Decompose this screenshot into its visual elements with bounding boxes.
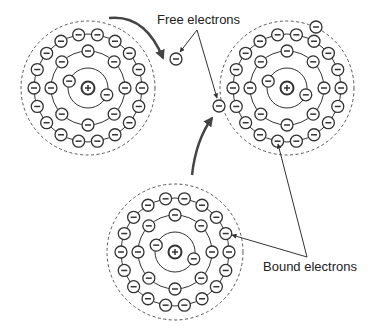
bound-electron (335, 82, 347, 94)
bound-electron (142, 199, 154, 211)
bound-electron (290, 135, 302, 147)
atom-top-right (220, 21, 354, 155)
bound-electron (118, 228, 130, 240)
bound-electron (254, 35, 266, 47)
bound-electron (196, 293, 208, 305)
bound-electron (133, 100, 145, 112)
bound-electron (143, 220, 155, 232)
bound-electron (160, 193, 172, 205)
bound-electron (91, 29, 103, 41)
bound-electron (28, 82, 40, 94)
bound-electron (132, 246, 144, 258)
atoms (21, 21, 354, 320)
bound-electron (290, 29, 302, 41)
bound-electron (196, 199, 208, 211)
bound-electron (41, 117, 53, 129)
bound-electron (41, 47, 53, 59)
free-electron (213, 100, 225, 112)
bound-electron (240, 47, 252, 59)
bound-electron (82, 119, 94, 131)
atom-diagram (0, 0, 375, 335)
pointer-arrow (197, 30, 217, 98)
bound-electron (55, 129, 67, 141)
bound-electron (272, 29, 284, 41)
bound-electron (136, 82, 148, 94)
bound-electron (123, 47, 135, 59)
bound-electron (210, 281, 222, 293)
bound-electron (244, 82, 256, 94)
atom-top-left (21, 21, 155, 155)
bound-electron (108, 108, 120, 120)
bound-electron (272, 135, 284, 147)
free-electron (170, 53, 182, 65)
bound-electron (73, 135, 85, 147)
bound-electron (128, 281, 140, 293)
bound-electron (55, 35, 67, 47)
bound-electron (178, 299, 190, 311)
bound-electron (240, 117, 252, 129)
nucleus (82, 82, 95, 95)
free-electrons-label: Free electrons (157, 12, 240, 27)
bound-electron (73, 29, 85, 41)
bound-electron (195, 272, 207, 284)
bound-electron (308, 129, 320, 141)
bound-electron (307, 108, 319, 120)
bound-electron (254, 129, 266, 141)
bound-electron (56, 108, 68, 120)
bound-electron (206, 246, 218, 258)
bound-electron (230, 64, 242, 76)
bound-electron (322, 47, 334, 59)
bound-electron (307, 56, 319, 68)
bound-electron (220, 264, 232, 276)
atom-bottom (107, 184, 243, 320)
pointer-arrow (278, 144, 307, 257)
bound-electron (300, 89, 312, 101)
bound-electron (45, 82, 57, 94)
bound-electron (63, 75, 75, 87)
bound-electron (255, 56, 267, 68)
bound-electron (281, 45, 293, 57)
bound-electron (281, 119, 293, 131)
bound-electron (195, 220, 207, 232)
bound-electron (115, 246, 127, 258)
bound-electron (56, 56, 68, 68)
bound-electron (230, 100, 242, 112)
pointer-arrow (180, 30, 197, 52)
bound-electron (119, 82, 131, 94)
bound-electron (133, 64, 145, 76)
bound-electron (91, 135, 103, 147)
bound-electron (118, 264, 130, 276)
bound-electron (128, 211, 140, 223)
bound-electron (108, 56, 120, 68)
bound-electron (143, 272, 155, 284)
bound-electron (31, 64, 43, 76)
bound-electron (220, 228, 232, 240)
bound-electron (169, 209, 181, 221)
bound-electron (318, 82, 330, 94)
bound-electron (31, 100, 43, 112)
bound-electron (262, 75, 274, 87)
bound-electron (150, 239, 162, 251)
bound-electron (101, 89, 113, 101)
bound-electron (332, 100, 344, 112)
bound-electrons-label: Bound electrons (263, 259, 357, 274)
bound-electron (160, 299, 172, 311)
bound-electron (123, 117, 135, 129)
bound-electron (223, 246, 235, 258)
bound-electron (178, 193, 190, 205)
free-electron (310, 21, 322, 33)
bound-electron (332, 64, 344, 76)
bound-electron (142, 293, 154, 305)
bound-electron (308, 35, 320, 47)
bound-electron (109, 129, 121, 141)
bound-electron (169, 283, 181, 295)
bound-electron (322, 117, 334, 129)
bound-electron (109, 35, 121, 47)
nucleus (169, 246, 182, 259)
bound-electron (255, 108, 267, 120)
bound-electron (188, 253, 200, 265)
motion-arrow (192, 118, 212, 175)
nucleus (281, 82, 294, 95)
bound-electron (210, 211, 222, 223)
bound-electron (82, 45, 94, 57)
